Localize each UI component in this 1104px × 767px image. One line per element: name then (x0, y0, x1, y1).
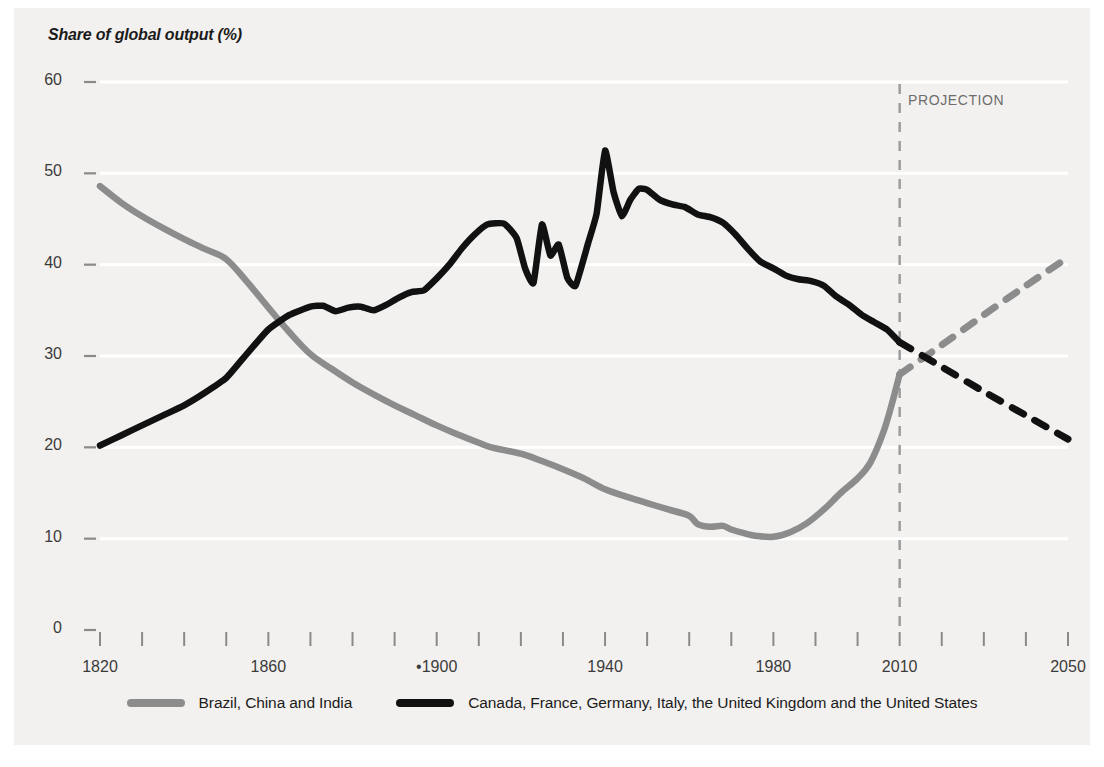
legend-swatch-icon-emerging (127, 699, 185, 707)
y-tick-label: 10 (22, 528, 62, 546)
y-tick-label: 20 (22, 436, 62, 454)
chart-plot-area (0, 0, 1104, 767)
y-tick-label: 50 (22, 162, 62, 180)
gridlines-group (100, 82, 1068, 539)
legend-swatch-icon-advanced (396, 699, 454, 707)
x-tick-label: •1900 (416, 658, 457, 676)
legend-label-advanced: Canada, France, Germany, Italy, the Unit… (468, 694, 977, 712)
x-ticks-group (100, 632, 1068, 646)
chart-figure: Share of global output (%) PROJECTION 01… (0, 0, 1104, 767)
y-ticks-group (84, 82, 96, 630)
series-line-historical (100, 186, 900, 537)
y-tick-label: 40 (22, 254, 62, 272)
y-tick-label: 0 (22, 619, 62, 637)
chart-legend: Brazil, China and India Canada, France, … (0, 694, 1104, 712)
series-line-historical (100, 150, 900, 445)
x-tick-label: 2010 (882, 658, 918, 676)
legend-item-advanced[interactable]: Canada, France, Germany, Italy, the Unit… (396, 694, 977, 712)
series-lines-group (100, 150, 1068, 537)
x-tick-label: 1940 (587, 658, 623, 676)
x-tick-label: 2050 (1050, 658, 1086, 676)
x-tick-label: 1860 (251, 658, 287, 676)
legend-label-emerging: Brazil, China and India (199, 694, 353, 712)
x-tick-label: 1980 (756, 658, 792, 676)
y-tick-label: 30 (22, 345, 62, 363)
y-tick-label: 60 (22, 71, 62, 89)
legend-item-emerging[interactable]: Brazil, China and India (127, 694, 353, 712)
x-tick-label: 1820 (82, 658, 118, 676)
